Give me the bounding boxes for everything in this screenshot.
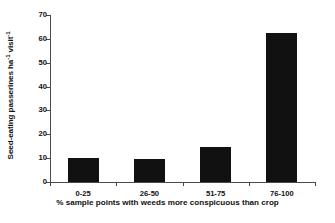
bar-51-75[interactable]: [200, 147, 231, 182]
x-tick-mark: [50, 182, 51, 186]
y-axis-title-sup-a: -1: [5, 54, 11, 59]
x-tick-label-51-75: 51-75: [206, 189, 225, 198]
x-tick-mark: [249, 182, 250, 186]
x-tick-mark: [116, 182, 117, 186]
y-tick-label: 70: [39, 10, 47, 19]
y-tick-label: 60: [39, 34, 47, 43]
plot-area: 010203040506070 0-2526-5051-7576-100: [50, 15, 315, 182]
y-tick-label: 40: [39, 82, 47, 91]
x-tick-label-26-50: 26-50: [140, 189, 159, 198]
bar-26-50[interactable]: [134, 159, 165, 182]
bar-0-25[interactable]: [68, 158, 99, 182]
bar-76-100[interactable]: [266, 33, 297, 182]
y-tick-label: 50: [39, 58, 47, 67]
x-tick-label-76-100: 76-100: [270, 189, 294, 198]
x-tick-label-0-25: 0-25: [76, 189, 91, 198]
y-axis-title-container: Seed-eating passerines ha-1 visit-1: [0, 0, 22, 190]
x-tick-mark: [183, 182, 184, 186]
bars-layer: [50, 15, 315, 182]
y-tick-label: 20: [39, 129, 47, 138]
y-tick-label: 30: [39, 105, 47, 114]
x-axis-title: % sample points with weeds more conspicu…: [0, 198, 335, 207]
y-axis-title-text-b: visit: [7, 36, 16, 54]
bar-chart-figure: Seed-eating passerines ha-1 visit-1 0102…: [0, 0, 335, 223]
y-tick-label: 10: [39, 153, 47, 162]
x-tick-mark: [315, 182, 316, 186]
y-axis-title-sup-b: -1: [5, 31, 11, 36]
y-axis-title: Seed-eating passerines ha-1 visit-1: [7, 31, 16, 159]
y-tick-label: 0: [43, 177, 47, 186]
y-axis-title-text-a: Seed-eating passerines ha: [7, 59, 16, 159]
